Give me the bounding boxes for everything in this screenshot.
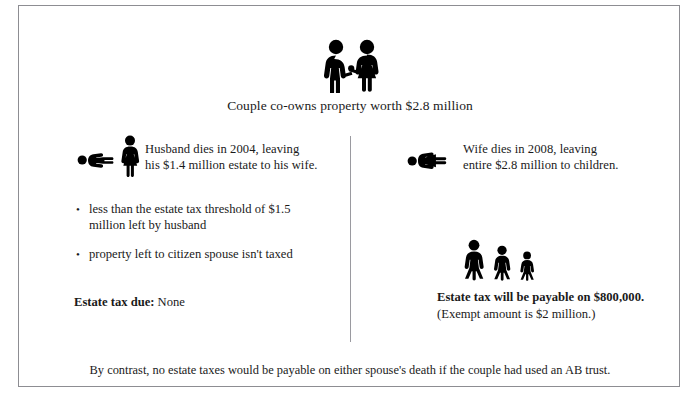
left-event-line-1: Husband dies in 2004, leaving [145, 142, 345, 158]
diagram-frame: Couple co-owns property worth $2.8 milli… [18, 5, 680, 387]
right-event-line-2: entire $2.8 million to children. [463, 158, 663, 174]
right-result-line-1: Estate tax will be payable on $800,000. [437, 289, 644, 306]
couple-property-caption: Couple co-owns property worth $2.8 milli… [19, 97, 681, 114]
three-children-icon [460, 239, 546, 285]
fallen-woman-icon [407, 148, 449, 174]
bullet-dot-icon: • [76, 202, 80, 218]
left-result-label: Estate tax due: [74, 295, 154, 309]
left-bullet-list: • less than the estate tax threshold of … [74, 202, 314, 277]
left-result-value: None [158, 295, 185, 309]
right-event-text: Wife dies in 2008, leaving entire $2.8 m… [463, 142, 663, 173]
left-event-text: Husband dies in 2004, leaving his $1.4 m… [145, 142, 345, 173]
bullet-dot-icon: • [76, 247, 80, 263]
list-item-label: property left to citizen spouse isn't ta… [89, 247, 293, 261]
left-result: Estate tax due: None [74, 294, 185, 310]
right-result-line-2: (Exempt amount is $2 million.) [437, 306, 644, 323]
right-event-line-1: Wife dies in 2008, leaving [463, 142, 663, 158]
left-event-line-2: his $1.4 million estate to his wife. [145, 158, 345, 174]
list-item: • less than the estate tax threshold of … [74, 202, 314, 233]
list-item-label: less than the estate tax threshold of $1… [89, 202, 290, 232]
fallen-man-icon [77, 147, 117, 173]
standing-woman-icon [117, 135, 143, 181]
vertical-divider [350, 136, 351, 342]
right-result: Estate tax will be payable on $800,000. … [437, 289, 644, 322]
footnote-text: By contrast, no estate taxes would be pa… [19, 362, 681, 378]
couple-holding-hands-icon [315, 39, 387, 93]
list-item: • property left to citizen spouse isn't … [74, 247, 314, 263]
